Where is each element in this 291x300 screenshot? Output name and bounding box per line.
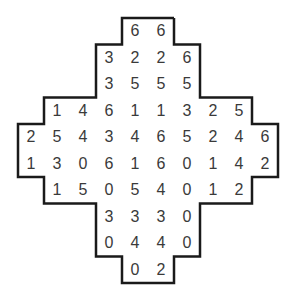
- grid-cell[interactable]: 5: [148, 71, 174, 98]
- grid-cell[interactable]: 0: [70, 151, 96, 178]
- grid-cell[interactable]: 0: [96, 177, 122, 204]
- grid-cell[interactable]: 3: [96, 204, 122, 231]
- grid-cell[interactable]: 5: [44, 124, 70, 151]
- grid-cell[interactable]: 1: [148, 98, 174, 125]
- number-grid-puzzle: 6632263555146113252543465246130616014215…: [0, 0, 291, 300]
- grid-cell[interactable]: 6: [148, 151, 174, 178]
- grid-cell[interactable]: 4: [226, 151, 252, 178]
- grid-cell[interactable]: 6: [174, 45, 200, 72]
- grid-cell[interactable]: 3: [174, 98, 200, 125]
- grid-cell[interactable]: 3: [122, 204, 148, 231]
- grid-cell[interactable]: 0: [174, 177, 200, 204]
- grid-cell[interactable]: 5: [122, 177, 148, 204]
- grid-cell[interactable]: 3: [148, 204, 174, 231]
- grid-cell[interactable]: 6: [252, 124, 278, 151]
- grid-cell[interactable]: 4: [148, 177, 174, 204]
- grid-cell[interactable]: 6: [122, 18, 148, 45]
- grid-cell[interactable]: 2: [252, 151, 278, 178]
- grid-cell[interactable]: 1: [122, 98, 148, 125]
- grid-cell[interactable]: 0: [174, 151, 200, 178]
- grid-cell[interactable]: 2: [200, 124, 226, 151]
- grid-cell[interactable]: 4: [70, 98, 96, 125]
- grid-cell[interactable]: 1: [44, 98, 70, 125]
- grid-cell[interactable]: 2: [200, 98, 226, 125]
- grid-cell[interactable]: 2: [226, 177, 252, 204]
- grid-cell[interactable]: 1: [122, 151, 148, 178]
- grid-cell[interactable]: 4: [226, 124, 252, 151]
- grid-cell[interactable]: 5: [174, 124, 200, 151]
- grid-cell[interactable]: 3: [96, 45, 122, 72]
- grid-cell[interactable]: 3: [44, 151, 70, 178]
- grid-cell[interactable]: 5: [174, 71, 200, 98]
- grid-cell[interactable]: 2: [148, 257, 174, 284]
- grid-cell[interactable]: 4: [122, 124, 148, 151]
- grid-cell[interactable]: 1: [200, 151, 226, 178]
- grid-cell[interactable]: 1: [44, 177, 70, 204]
- grid-cell[interactable]: 0: [122, 257, 148, 284]
- grid-cell[interactable]: 1: [200, 177, 226, 204]
- grid-cell[interactable]: 2: [18, 124, 44, 151]
- grid-cell[interactable]: 1: [18, 151, 44, 178]
- grid-cell[interactable]: 2: [122, 45, 148, 72]
- grid-cell[interactable]: 3: [96, 71, 122, 98]
- grid-cell[interactable]: 5: [122, 71, 148, 98]
- grid-cell[interactable]: 5: [226, 98, 252, 125]
- grid-cell[interactable]: 0: [174, 230, 200, 257]
- grid-cell[interactable]: 6: [148, 124, 174, 151]
- grid-cell[interactable]: 4: [148, 230, 174, 257]
- grid-cell[interactable]: 5: [70, 177, 96, 204]
- grid-cell[interactable]: 0: [96, 230, 122, 257]
- grid-cell[interactable]: 2: [148, 45, 174, 72]
- grid-cell[interactable]: 0: [174, 204, 200, 231]
- grid-cell[interactable]: 3: [96, 124, 122, 151]
- grid-cell[interactable]: 4: [122, 230, 148, 257]
- grid-cell[interactable]: 6: [96, 98, 122, 125]
- grid-cell[interactable]: 4: [70, 124, 96, 151]
- grid-cell[interactable]: 6: [96, 151, 122, 178]
- grid-cell[interactable]: 6: [148, 18, 174, 45]
